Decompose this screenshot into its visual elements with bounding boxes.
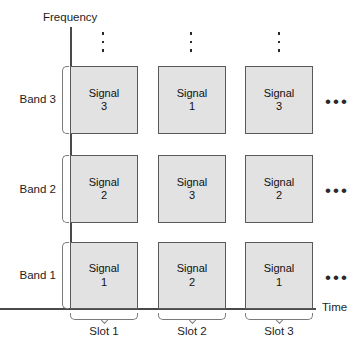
signal-cell-label: Signal: [89, 176, 120, 189]
vertical-ellipsis-icon-slot-2: [186, 32, 196, 52]
vertical-ellipsis-icon-slot-3: [274, 32, 284, 52]
slot-brace-slot-1: [70, 313, 138, 320]
signal-cell-number: 1: [189, 100, 195, 113]
signal-cell-number: 3: [276, 100, 282, 113]
signal-cell-label: Signal: [177, 262, 208, 275]
signal-cell-number: 3: [101, 100, 107, 113]
band-brace-band-2: [62, 155, 69, 223]
band-brace-band-1: [62, 242, 69, 309]
dot: [278, 49, 281, 52]
band-brace-band-3: [62, 66, 69, 134]
signal-cell-label: Signal: [264, 87, 295, 100]
signal-cell-band1-slot3[interactable]: Signal 1: [245, 242, 313, 309]
signal-cell-band3-slot2[interactable]: Signal 1: [158, 66, 226, 134]
signal-cell-number: 1: [276, 276, 282, 289]
signal-cell-label: Signal: [177, 87, 208, 100]
row-ellipsis-band-3: •••: [325, 93, 349, 110]
slot-brace-slot-3: [245, 313, 313, 320]
signal-cell-number: 2: [276, 189, 282, 202]
signal-cell-label: Signal: [264, 262, 295, 275]
signal-cell-number: 1: [101, 276, 107, 289]
slot-label-slot-1: Slot 1: [70, 326, 138, 338]
signal-cell-number: 2: [101, 189, 107, 202]
dot: [278, 32, 281, 35]
dot: [278, 41, 281, 44]
signal-cell-band3-slot3[interactable]: Signal 3: [245, 66, 313, 134]
vertical-ellipsis-icon-slot-1: [98, 32, 108, 52]
slot-brace-slot-2: [158, 313, 226, 320]
time-axis-label: Time: [322, 302, 347, 314]
row-ellipsis-band-2: •••: [325, 182, 349, 199]
dot: [102, 49, 105, 52]
row-ellipsis-band-1: •••: [325, 269, 349, 286]
signal-cell-label: Signal: [89, 87, 120, 100]
frequency-axis-label: Frequency: [43, 12, 97, 24]
signal-cell-label: Signal: [177, 176, 208, 189]
dot: [190, 49, 193, 52]
signal-cell-number: 3: [189, 189, 195, 202]
dot: [102, 32, 105, 35]
signal-cell-band3-slot1[interactable]: Signal 3: [70, 66, 138, 134]
signal-cell-band2-slot1[interactable]: Signal 2: [70, 155, 138, 223]
dot: [190, 41, 193, 44]
slot-label-slot-3: Slot 3: [245, 326, 313, 338]
dot: [102, 41, 105, 44]
signal-cell-band1-slot2[interactable]: Signal 2: [158, 242, 226, 309]
band-label-band-1: Band 1: [8, 270, 56, 282]
signal-cell-band2-slot2[interactable]: Signal 3: [158, 155, 226, 223]
band-label-band-2: Band 2: [8, 184, 56, 196]
dot: [190, 32, 193, 35]
signal-cell-label: Signal: [89, 262, 120, 275]
signal-cell-band2-slot3[interactable]: Signal 2: [245, 155, 313, 223]
frequency-hopping-diagram: Frequency Time Band 3 Signal 3 Signal 1 …: [0, 0, 363, 354]
slot-label-slot-2: Slot 2: [158, 326, 226, 338]
signal-cell-number: 2: [189, 276, 195, 289]
signal-cell-band1-slot1[interactable]: Signal 1: [70, 242, 138, 309]
signal-cell-label: Signal: [264, 176, 295, 189]
band-label-band-3: Band 3: [8, 94, 56, 106]
